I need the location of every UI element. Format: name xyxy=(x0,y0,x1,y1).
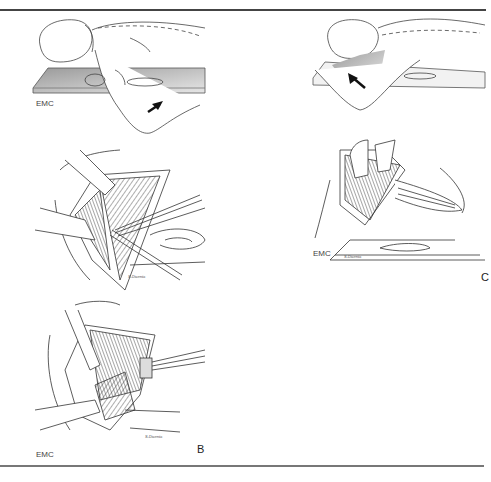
emc-logo: EMC xyxy=(36,450,54,459)
panel-a-top-patient xyxy=(33,20,205,134)
panel-label-c: C xyxy=(481,271,489,283)
signature: S.Dicenta xyxy=(344,254,362,259)
panel-a-mid-surgical-field xyxy=(35,150,205,290)
signature: S.Dicenta xyxy=(145,434,163,439)
panel-b-dissection xyxy=(35,301,205,432)
signature: S.Dicenta xyxy=(128,274,146,279)
emc-logo: EMC xyxy=(313,249,331,258)
panel-c-exposure xyxy=(315,140,485,260)
emc-logo: EMC xyxy=(36,99,54,108)
surgical-illustration: S.Dicenta S.Dicenta xyxy=(0,0,491,482)
panel-label-b: B xyxy=(197,443,204,455)
panel-c-top-patient xyxy=(313,19,485,110)
